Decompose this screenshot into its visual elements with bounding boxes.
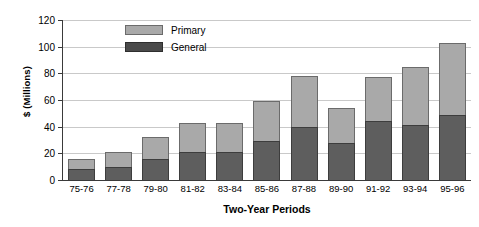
- y-axis-title: $ (Millions): [21, 32, 32, 152]
- x-axis-label-91-92: 91-92: [365, 183, 392, 197]
- y-axis-label-60: 60: [44, 95, 55, 106]
- y-tick-0: [58, 180, 63, 181]
- bar-segment-general[interactable]: [439, 115, 466, 180]
- bar-segment-primary[interactable]: [68, 159, 95, 170]
- bar-segment-primary[interactable]: [216, 123, 243, 152]
- bar-segment-primary[interactable]: [328, 108, 355, 143]
- bar-segment-primary[interactable]: [365, 77, 392, 121]
- bar-75-76[interactable]: [68, 20, 95, 180]
- bar-segment-general[interactable]: [253, 141, 280, 180]
- bar-87-88[interactable]: [291, 20, 318, 180]
- stacked-bar-chart: $ (Millions) 120 100 80 60 40 20 0 75-76…: [0, 0, 479, 227]
- bar-segment-general[interactable]: [142, 159, 169, 180]
- y-axis-label-120: 120: [38, 15, 55, 26]
- legend-item-primary: Primary: [125, 23, 207, 37]
- bar-segment-primary[interactable]: [253, 101, 280, 141]
- x-axis-label-77-78: 77-78: [105, 183, 132, 197]
- bar-segment-primary[interactable]: [105, 152, 132, 167]
- bar-segment-general[interactable]: [179, 152, 206, 180]
- legend: Primary General: [125, 23, 207, 57]
- legend-label-primary: Primary: [171, 25, 205, 36]
- bar-segment-primary[interactable]: [402, 67, 429, 126]
- x-axis-label-83-84: 83-84: [216, 183, 243, 197]
- x-axis-label-75-76: 75-76: [68, 183, 95, 197]
- y-axis-label-80: 80: [44, 68, 55, 79]
- bar-83-84[interactable]: [216, 20, 243, 180]
- bar-85-86[interactable]: [253, 20, 280, 180]
- bar-segment-general[interactable]: [216, 152, 243, 180]
- bar-segment-primary[interactable]: [142, 137, 169, 158]
- x-axis-label-79-80: 79-80: [142, 183, 169, 197]
- x-axis-title: Two-Year Periods: [63, 203, 471, 215]
- x-axis-tick-labels: 75-7677-7879-8081-8283-8485-8687-8889-90…: [63, 183, 471, 197]
- bar-95-96[interactable]: [439, 20, 466, 180]
- x-axis-label-89-90: 89-90: [328, 183, 355, 197]
- y-axis-label-40: 40: [44, 121, 55, 132]
- x-axis-label-93-94: 93-94: [402, 183, 429, 197]
- bar-segment-general[interactable]: [291, 127, 318, 180]
- x-axis-label-87-88: 87-88: [291, 183, 318, 197]
- bar-93-94[interactable]: [402, 20, 429, 180]
- bar-89-90[interactable]: [328, 20, 355, 180]
- bar-segment-primary[interactable]: [291, 76, 318, 127]
- x-axis-label-85-86: 85-86: [253, 183, 280, 197]
- bar-segment-general[interactable]: [365, 121, 392, 180]
- bar-segment-general[interactable]: [68, 169, 95, 180]
- x-axis-line: [63, 180, 471, 181]
- x-axis-label-95-96: 95-96: [439, 183, 466, 197]
- legend-item-general: General: [125, 40, 207, 54]
- bar-91-92[interactable]: [365, 20, 392, 180]
- y-axis-label-20: 20: [44, 148, 55, 159]
- bar-segment-primary[interactable]: [179, 123, 206, 152]
- x-axis-label-81-82: 81-82: [179, 183, 206, 197]
- y-axis-label-100: 100: [38, 41, 55, 52]
- y-axis-label-0: 0: [49, 175, 55, 186]
- bar-segment-general[interactable]: [402, 125, 429, 180]
- bar-segment-general[interactable]: [105, 167, 132, 180]
- legend-label-general: General: [171, 42, 207, 53]
- bar-segment-primary[interactable]: [439, 43, 466, 115]
- legend-swatch-primary-icon: [125, 25, 163, 35]
- bar-segment-general[interactable]: [328, 143, 355, 180]
- legend-swatch-general-icon: [125, 42, 163, 52]
